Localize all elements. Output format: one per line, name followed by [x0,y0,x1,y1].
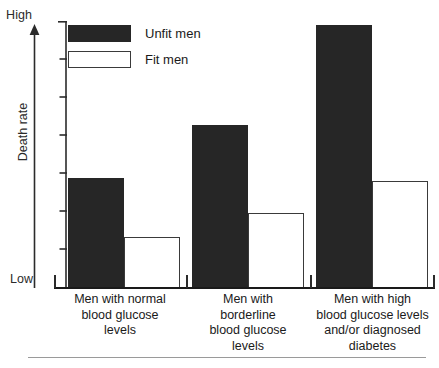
bar-fit-high-glucose [372,181,428,288]
group-separator-tick [186,275,188,288]
category-line: Men with high [310,292,435,308]
category-line: Men with [186,292,310,308]
category-line: Men with normal [54,292,186,308]
legend-swatch-unfit-men [68,25,131,42]
category-line: levels [186,339,310,355]
bar-unfit-normal-glucose [68,178,124,288]
category-line: blood glucose levels [310,308,435,324]
category-line: borderline [186,308,310,324]
category-line: and/or diagnosed [310,323,435,339]
category-label-high-glucose: Men with high blood glucose levels and/o… [310,292,435,354]
chart-legend: Unfit men Fit men [68,20,201,72]
y-axis-arrow-icon [29,24,40,288]
legend-item-unfit-men: Unfit men [68,20,201,46]
legend-item-fit-men: Fit men [68,46,201,72]
legend-label-fit-men: Fit men [145,52,188,67]
legend-label-unfit-men: Unfit men [145,26,201,41]
y-axis-high-label: High [6,8,32,22]
bar-unfit-borderline-glucose [192,125,248,288]
y-axis-title: Death rate [16,87,30,177]
category-line: blood glucose [54,308,186,324]
bar-fit-normal-glucose [124,237,180,288]
legend-swatch-fit-men [68,51,131,68]
bar-group-high-glucose [316,20,428,288]
bar-group-borderline-glucose [192,20,304,288]
group-separator-tick [433,275,435,288]
bottom-rule-divider [28,357,426,358]
bar-fit-borderline-glucose [248,213,304,288]
category-line: diabetes [310,339,435,355]
bar-unfit-high-glucose [316,25,372,288]
x-axis-baseline [54,287,435,289]
bar-chart-figure: High Low Death rate [0,0,439,368]
category-line: levels [54,323,186,339]
x-axis-category-labels: Men with normal blood glucose levels Men… [54,292,435,354]
group-separator-tick [54,275,56,288]
category-label-borderline-glucose: Men with borderline blood glucose levels [186,292,310,354]
category-line: blood glucose [186,323,310,339]
category-label-normal-glucose: Men with normal blood glucose levels [54,292,186,339]
group-separator-tick [310,275,312,288]
